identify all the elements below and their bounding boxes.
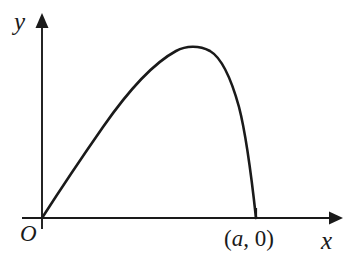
x-intercept-label: (a, 0) bbox=[224, 227, 274, 250]
x-axis-arrowhead-icon bbox=[329, 212, 343, 225]
y-axis-label: y bbox=[14, 9, 25, 34]
y-axis-arrowhead-icon bbox=[36, 13, 49, 28]
x-intercept-comma-zero: , 0) bbox=[243, 226, 274, 251]
origin-label: O bbox=[20, 222, 37, 245]
x-intercept-open-paren: ( bbox=[224, 226, 232, 251]
x-intercept-variable: a bbox=[232, 226, 244, 251]
graph-figure: y x O (a, 0) bbox=[0, 0, 357, 266]
x-axis-label: x bbox=[321, 228, 332, 253]
coordinate-plot-svg bbox=[0, 0, 357, 266]
curve-path bbox=[42, 47, 256, 218]
